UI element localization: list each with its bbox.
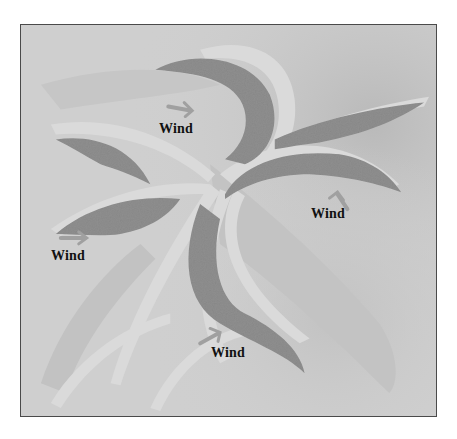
wind-label-bottom: Wind bbox=[211, 346, 245, 360]
wind-label-left: Wind bbox=[51, 249, 85, 263]
diagram-frame: Wind Wind Wind Wind bbox=[20, 24, 437, 417]
wind-label-top: Wind bbox=[159, 122, 193, 136]
wind-label-right: Wind bbox=[311, 207, 345, 221]
